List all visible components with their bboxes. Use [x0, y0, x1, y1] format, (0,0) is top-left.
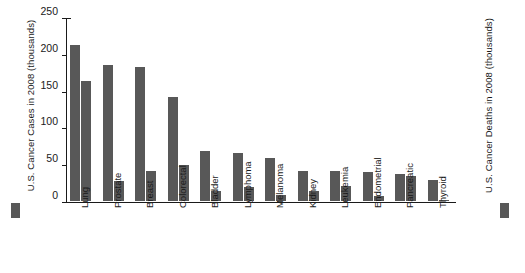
bar-group — [70, 17, 91, 201]
y-tick-label: 200 — [22, 42, 58, 54]
x-category-label: Breast — [144, 181, 155, 208]
bar-group — [298, 17, 319, 201]
chart-page: U.S. Cancer Cases in 2008 (thousands) U.… — [0, 0, 525, 273]
x-category-label: Prostate — [112, 173, 123, 208]
y-axis-line — [66, 18, 67, 202]
x-axis-line — [66, 202, 456, 203]
bar-cases — [428, 180, 438, 201]
bar-cases — [233, 153, 243, 201]
y-tick-label: 250 — [22, 5, 58, 17]
x-category-label: Bladder — [209, 175, 220, 208]
x-category-label: Kidney — [307, 179, 318, 208]
y-tick-mark — [62, 202, 66, 203]
left-axis-title: U.S. Cancer Cases in 2008 (thousands) — [25, 6, 36, 206]
bar-cases — [363, 172, 373, 201]
plot-area: 050100150200250 — [66, 18, 456, 202]
x-category-label: Endometrial — [372, 157, 383, 208]
bar-group — [135, 17, 156, 201]
x-category-label: Melanoma — [274, 164, 285, 208]
bar-cases — [298, 171, 308, 201]
x-category-label: Leukemia — [339, 167, 350, 208]
bar-group — [428, 17, 449, 201]
x-category-label: Lymphoma — [242, 161, 253, 208]
y-tick-mark — [62, 18, 66, 19]
legend-swatch-cases — [11, 203, 20, 218]
x-category-label: Lung — [79, 187, 90, 208]
y-tick-label: 100 — [22, 115, 58, 127]
y-tick-label: 0 — [22, 189, 58, 201]
legend-swatch-deaths — [500, 203, 509, 218]
y-tick-mark — [62, 128, 66, 129]
bar-deaths — [81, 81, 91, 201]
y-tick-mark — [62, 55, 66, 56]
x-category-label: Thyroid — [437, 176, 448, 208]
y-tick-label: 150 — [22, 79, 58, 91]
bar-cases — [70, 45, 80, 201]
y-tick-mark — [62, 165, 66, 166]
x-category-label: Colorectal — [177, 165, 188, 208]
bar-group — [200, 17, 221, 201]
bar-cases — [168, 97, 178, 202]
y-tick-mark — [62, 92, 66, 93]
bar-cases — [103, 65, 113, 201]
right-axis-title: U.S. Cancer Deaths in 2008 (thousands) — [483, 6, 494, 206]
y-tick-label: 50 — [22, 152, 58, 164]
x-category-label: Pancreatic — [404, 163, 415, 208]
